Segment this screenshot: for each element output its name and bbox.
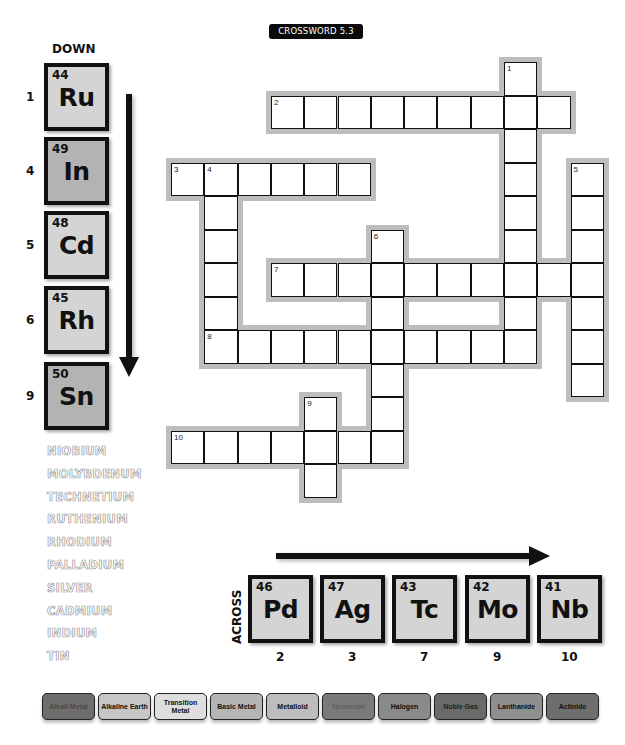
- atomic-number: 44: [52, 68, 69, 82]
- crossword-cell[interactable]: [371, 263, 404, 297]
- crossword-cell[interactable]: [504, 196, 537, 230]
- crossword-cell[interactable]: [304, 96, 337, 130]
- crossword-cell[interactable]: [571, 297, 604, 331]
- crossword-cell[interactable]: [338, 330, 371, 364]
- down-clue-number: 6: [26, 313, 34, 327]
- crossword-cell[interactable]: [471, 330, 504, 364]
- across-heading: ACROSS: [230, 594, 244, 644]
- down-clue-number: 9: [26, 389, 34, 403]
- crossword-cell[interactable]: [471, 263, 504, 297]
- crossword-cell[interactable]: [437, 96, 470, 130]
- element-tile-cd: 48 Cd: [44, 211, 109, 279]
- crossword-cell[interactable]: [371, 397, 404, 431]
- crossword-cell[interactable]: [371, 431, 404, 465]
- element-symbol: In: [48, 157, 105, 186]
- legend-nonmetal: Nonmetal: [322, 693, 375, 720]
- crossword-cell[interactable]: [304, 431, 337, 465]
- crossword-cell[interactable]: [304, 163, 337, 197]
- crossword-cell[interactable]: [504, 129, 537, 163]
- crossword-cell[interactable]: 3: [171, 163, 204, 197]
- crossword-cell[interactable]: [571, 364, 604, 398]
- crossword-cell[interactable]: [504, 96, 537, 130]
- down-clue-number: 4: [26, 164, 34, 178]
- crossword-cell[interactable]: [204, 196, 237, 230]
- crossword-cell[interactable]: 7: [271, 263, 304, 297]
- crossword-cell[interactable]: 4: [204, 163, 237, 197]
- element-tile-nb: 41 Nb: [537, 575, 602, 643]
- cell-clue-number: 10: [174, 433, 183, 442]
- crossword-cell[interactable]: 2: [271, 96, 304, 130]
- element-tile-sn: 50 Sn: [44, 362, 109, 430]
- legend-basic-metal: Basic Metal: [210, 693, 263, 720]
- crossword-cell[interactable]: [471, 96, 504, 130]
- element-symbol: Pd: [252, 595, 309, 624]
- crossword-cell[interactable]: [338, 263, 371, 297]
- crossword-cell[interactable]: [204, 297, 237, 331]
- crossword-cell[interactable]: [371, 96, 404, 130]
- crossword-cell[interactable]: [271, 330, 304, 364]
- element-tile-mo: 42 Mo: [465, 575, 530, 643]
- crossword-cell[interactable]: [504, 297, 537, 331]
- crossword-cell[interactable]: [504, 263, 537, 297]
- word-bank-item: RHODIUM: [47, 535, 142, 558]
- crossword-cell[interactable]: [338, 431, 371, 465]
- across-clue-number: 10: [561, 650, 578, 664]
- across-arrow-icon: [276, 553, 531, 559]
- crossword-cell[interactable]: [338, 163, 371, 197]
- crossword-cell[interactable]: [537, 96, 570, 130]
- crossword-cell[interactable]: 8: [204, 330, 237, 364]
- crossword-cell[interactable]: [238, 330, 271, 364]
- crossword-cell[interactable]: [437, 330, 470, 364]
- crossword-cell[interactable]: [204, 263, 237, 297]
- crossword-cell[interactable]: [404, 330, 437, 364]
- element-symbol: Ag: [324, 595, 381, 624]
- atomic-number: 43: [400, 580, 417, 594]
- across-arrow-head-icon: [529, 546, 550, 566]
- atomic-number: 42: [473, 580, 490, 594]
- crossword-cell[interactable]: 9: [304, 397, 337, 431]
- crossword-cell[interactable]: [304, 263, 337, 297]
- legend-alkali-metal: Alkali Metal: [42, 693, 95, 720]
- legend-noble-gas: Noble Gas: [434, 693, 487, 720]
- element-symbol: Rh: [48, 306, 105, 335]
- cell-clue-number: 1: [507, 64, 511, 73]
- word-bank-item: INDIUM: [47, 626, 142, 649]
- legend-halogen: Halogen: [378, 693, 431, 720]
- element-symbol: Nb: [541, 595, 598, 624]
- cell-clue-number: 3: [174, 165, 178, 174]
- cell-clue-number: 7: [274, 265, 278, 274]
- across-clue-number: 2: [276, 650, 284, 664]
- cell-clue-number: 8: [207, 332, 211, 341]
- crossword-cell[interactable]: 6: [371, 230, 404, 264]
- crossword-cell[interactable]: [571, 263, 604, 297]
- crossword-cell[interactable]: [238, 431, 271, 465]
- crossword-cell[interactable]: [271, 431, 304, 465]
- crossword-cell[interactable]: [571, 196, 604, 230]
- crossword-cell[interactable]: 5: [571, 163, 604, 197]
- crossword-cell[interactable]: [371, 330, 404, 364]
- crossword-cell[interactable]: [371, 297, 404, 331]
- crossword-cell[interactable]: [338, 96, 371, 130]
- crossword-cell[interactable]: [571, 230, 604, 264]
- crossword-cell[interactable]: [404, 263, 437, 297]
- crossword-cell[interactable]: [504, 230, 537, 264]
- crossword-cell[interactable]: [204, 431, 237, 465]
- crossword-cell[interactable]: [437, 263, 470, 297]
- crossword-cell[interactable]: [537, 263, 570, 297]
- crossword-cell[interactable]: [271, 163, 304, 197]
- crossword-cell[interactable]: [571, 330, 604, 364]
- legend-actinide: Actinide: [546, 693, 599, 720]
- across-clue-number: 9: [493, 650, 501, 664]
- crossword-cell[interactable]: [304, 464, 337, 498]
- crossword-cell[interactable]: [404, 96, 437, 130]
- down-clue-number: 5: [26, 238, 34, 252]
- crossword-cell[interactable]: 1: [504, 62, 537, 96]
- across-clue-number: 7: [420, 650, 428, 664]
- crossword-cell[interactable]: [238, 163, 271, 197]
- crossword-cell[interactable]: [304, 330, 337, 364]
- crossword-cell[interactable]: [504, 163, 537, 197]
- crossword-cell[interactable]: [504, 330, 537, 364]
- crossword-cell[interactable]: [371, 364, 404, 398]
- crossword-cell[interactable]: [204, 230, 237, 264]
- crossword-cell[interactable]: 10: [171, 431, 204, 465]
